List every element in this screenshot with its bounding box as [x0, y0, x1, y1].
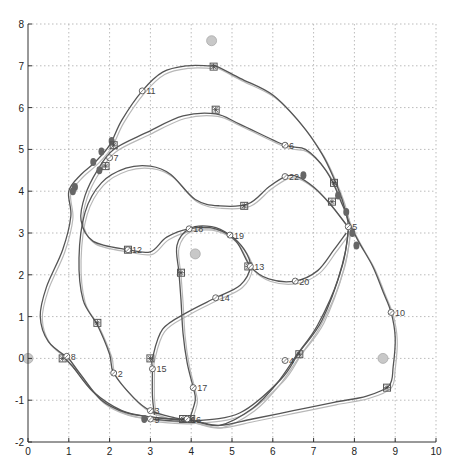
landmark-marker	[207, 36, 217, 46]
pose-cluster-marker	[343, 208, 349, 216]
x-tick-label: 9	[392, 446, 398, 457]
y-tick-label: 2	[18, 270, 24, 281]
point-label: 19	[234, 231, 244, 241]
star-marker	[111, 142, 117, 148]
star-marker	[147, 355, 153, 361]
point-label: 8	[71, 352, 76, 362]
star-marker	[329, 199, 335, 205]
point-label: 20	[299, 277, 309, 287]
landmark-marker	[190, 249, 200, 259]
y-tick-label: -2	[15, 437, 24, 448]
y-tick-label: 3	[18, 228, 24, 239]
ground-truth-paths	[42, 67, 397, 428]
x-tick-label: 7	[311, 446, 317, 457]
point-label: 4	[289, 356, 294, 366]
pose-cluster-marker	[70, 187, 76, 195]
point-label: 14	[220, 293, 230, 303]
pose-cluster-marker	[300, 171, 306, 179]
point-label: 9	[154, 415, 159, 425]
pose-cluster-marker	[98, 147, 104, 155]
star-marker	[213, 107, 219, 113]
star-marker	[94, 320, 100, 326]
point-label: 15	[156, 364, 166, 374]
pose-cluster-marker	[90, 158, 96, 166]
y-tick-label: 4	[18, 186, 24, 197]
x-tick-label: 1	[66, 446, 72, 457]
point-label: 18	[193, 224, 203, 234]
star-marker	[331, 180, 337, 186]
star-marker	[103, 163, 109, 169]
trajectory-plot: 23456789101112131415161718192022 0123456…	[0, 0, 457, 466]
star-marker	[241, 203, 247, 209]
point-label: 12	[132, 245, 142, 255]
y-tick-label: 8	[18, 19, 24, 30]
point-label: 2	[118, 369, 123, 379]
y-tick-label: 7	[18, 61, 24, 72]
point-label: 11	[146, 86, 155, 96]
point-label: 6	[289, 141, 294, 151]
estimated-path	[79, 166, 346, 421]
star-marker	[178, 270, 184, 276]
pose-cluster-marker	[353, 242, 359, 250]
y-tick-label: 1	[18, 312, 24, 323]
point-label: 7	[114, 153, 119, 163]
x-tick-label: 2	[107, 446, 113, 457]
y-tick-label: 5	[18, 144, 24, 155]
y-tick-label: 0	[18, 353, 24, 364]
pose-cluster-marker	[141, 415, 147, 423]
x-tick-label: 5	[229, 446, 235, 457]
y-tick-label: -1	[15, 395, 24, 406]
x-tick-label: 8	[352, 446, 358, 457]
estimated-paths	[40, 65, 395, 426]
pose-cluster-marker	[335, 191, 341, 199]
x-tick-label: 3	[148, 446, 154, 457]
x-tick-label: 6	[270, 446, 276, 457]
landmark-marker	[378, 353, 388, 363]
point-label: 10	[395, 308, 405, 318]
ground-truth-path	[154, 229, 253, 423]
point-label: 22	[289, 172, 299, 182]
point-label: 5	[352, 222, 357, 232]
ground-truth-path	[42, 67, 397, 427]
y-tick-label: 6	[18, 103, 24, 114]
point-label: 17	[197, 383, 207, 393]
point-label: 13	[254, 262, 264, 272]
point-label: 16	[191, 415, 201, 425]
star-marker	[296, 351, 302, 357]
x-tick-label: 4	[188, 446, 194, 457]
x-tick-label: 10	[430, 446, 442, 457]
star-marker	[211, 64, 217, 70]
star-marker	[384, 385, 390, 391]
x-tick-label: 0	[25, 446, 31, 457]
pose-cluster-marker	[96, 166, 102, 174]
landmarks	[23, 36, 388, 364]
